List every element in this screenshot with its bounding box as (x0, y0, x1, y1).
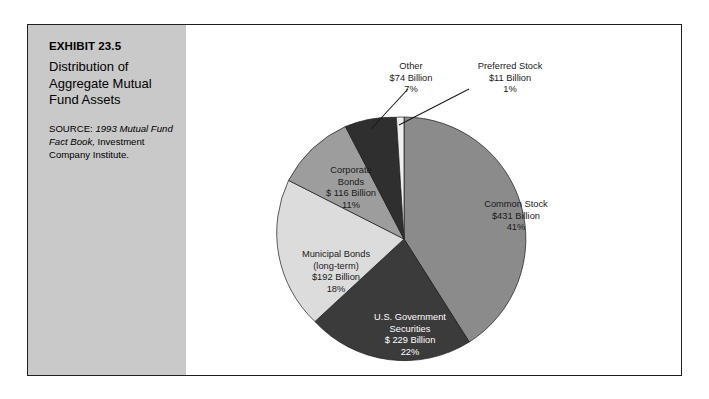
callout-other-line-2: $74 Billion (368, 73, 454, 85)
exhibit-number: EXHIBIT 23.5 (49, 40, 175, 53)
callout-label-other: Other $74 Billion 7% (368, 61, 454, 96)
label-municipal-line-2: (long-term) (313, 261, 358, 271)
callout-preferred-line-2: $11 Billion (458, 73, 562, 85)
exhibit-title-line-2: Aggregate Mutual (49, 76, 175, 93)
exhibit-frame: EXHIBIT 23.5 Distribution of Aggregate M… (27, 24, 682, 376)
label-common-stock-line-3: 41% (507, 222, 526, 232)
label-corporate-line-4: 11% (342, 200, 360, 210)
chart-area: Common Stock $431 Billion 41% U.S. Gover… (186, 25, 681, 375)
label-us-government-line-2: Securities (390, 324, 431, 334)
callout-label-preferred-stock: Preferred Stock $11 Billion 1% (458, 61, 562, 96)
callout-other-line-3: 7% (368, 84, 454, 96)
label-us-government-line-3: $ 229 Billion (385, 335, 436, 345)
exhibit-source-note: SOURCE: 1993 Mutual Fund Fact Book, Inve… (49, 122, 175, 161)
label-us-government-line-4: 22% (401, 347, 420, 357)
pie-chart: Common Stock $431 Billion 41% U.S. Gover… (186, 25, 683, 375)
exhibit-caption-panel: EXHIBIT 23.5 Distribution of Aggregate M… (28, 25, 186, 375)
callout-preferred-line-3: 1% (458, 84, 562, 96)
exhibit-title-line-3: Fund Assets (49, 92, 175, 109)
label-common-stock-line-2: $431 Billion (492, 211, 540, 221)
label-corporate-line-1: Corporate (330, 165, 371, 175)
label-corporate-line-3: $ 116 Billion (326, 188, 376, 198)
label-municipal-line-1: Municipal Bonds (302, 249, 371, 259)
label-common-stock-line-1: Common Stock (484, 199, 548, 209)
caption-text-block: EXHIBIT 23.5 Distribution of Aggregate M… (49, 40, 175, 161)
source-label: SOURCE: (49, 123, 93, 134)
label-corporate-line-2: Bonds (338, 177, 365, 187)
label-municipal-line-4: 18% (327, 284, 346, 294)
exhibit-title-line-1: Distribution of (49, 59, 175, 76)
exhibit-title: Distribution of Aggregate Mutual Fund As… (49, 59, 175, 109)
label-us-government-line-1: U.S. Government (374, 312, 446, 322)
callout-preferred-line-1: Preferred Stock (458, 61, 562, 73)
label-municipal-line-3: $192 Billion (312, 272, 360, 282)
callout-other-line-1: Other (368, 61, 454, 73)
